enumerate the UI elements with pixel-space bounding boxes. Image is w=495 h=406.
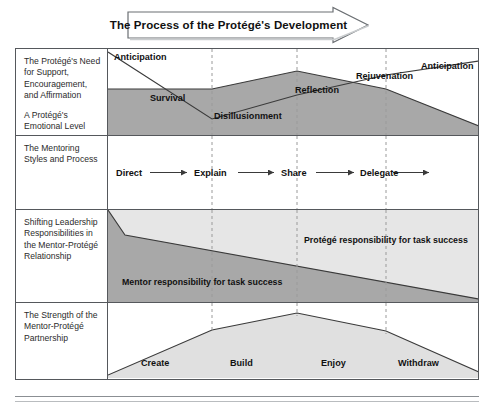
style-step-share: Share <box>281 168 307 178</box>
process-matrix: The Protégé's Need for Support, Encourag… <box>15 48 479 380</box>
plot-shifting: Protégé responsibility for task success … <box>108 210 478 302</box>
style-step-explain: Explain <box>194 168 227 178</box>
row-label-emotional: The Protégé's Need for Support, Encourag… <box>16 49 108 135</box>
diagram-canvas: The Process of the Protégé's Development… <box>0 0 495 406</box>
row-label-shifting: Shifting Leadership Responsibilities in … <box>16 210 108 302</box>
row-label-shifting-line-1: Shifting Leadership Responsibilities in … <box>24 217 101 263</box>
label-rejuvenation: Rejuvenation <box>356 71 413 81</box>
row-partnership-strength: The Strength of the Mentor-Protégé Partn… <box>16 303 478 379</box>
row-label-emotional-line-1: The Protégé's Need for Support, Encourag… <box>24 56 101 102</box>
footer-rule-bottom <box>15 401 479 402</box>
row-label-strength: The Strength of the Mentor-Protégé Partn… <box>16 303 108 379</box>
label-mentor-responsibility: Mentor responsibility for task success <box>122 277 282 287</box>
row-label-strength-line-1: The Strength of the Mentor-Protégé Partn… <box>24 310 101 344</box>
row-label-emotional-line-2: A Protégé's Emotional Level <box>24 110 101 133</box>
page-title: The Process of the Protégé's Development <box>126 6 331 44</box>
label-phase-create: Create <box>141 358 169 368</box>
label-phase-build: Build <box>230 358 253 368</box>
label-disillusionment: Disillusionment <box>214 111 282 121</box>
row-emotional-level: The Protégé's Need for Support, Encourag… <box>16 49 478 136</box>
row-label-styles-line-1: The Mentoring Styles and Process <box>24 143 101 166</box>
row-shifting-responsibilities: Shifting Leadership Responsibilities in … <box>16 210 478 303</box>
label-anticipation-start: Anticipation <box>114 52 167 62</box>
row-label-styles: The Mentoring Styles and Process <box>16 136 108 209</box>
label-anticipation-end: Anticipation <box>421 61 474 71</box>
style-step-direct: Direct <box>116 168 142 178</box>
row-mentoring-styles: The Mentoring Styles and Process <box>16 136 478 210</box>
label-survival: Survival <box>150 93 185 103</box>
plot-styles: Direct Explain Delegate Share <box>108 136 478 209</box>
label-reflection: Reflection <box>295 85 339 95</box>
label-protege-responsibility: Protégé responsibility for task success <box>304 235 468 245</box>
plot-strength: Create Build Enjoy Withdraw <box>108 303 478 379</box>
label-phase-enjoy: Enjoy <box>321 358 346 368</box>
title-arrow-banner: The Process of the Protégé's Development <box>126 6 370 44</box>
label-phase-withdraw: Withdraw <box>398 358 439 368</box>
plot-emotional: Anticipation Survival Disillusionment Re… <box>108 49 478 135</box>
style-step-delegate: Delegate <box>360 168 398 178</box>
mentoring-style-chain: Direct Explain Delegate Share <box>108 136 478 209</box>
footer-rule-top <box>15 396 479 397</box>
